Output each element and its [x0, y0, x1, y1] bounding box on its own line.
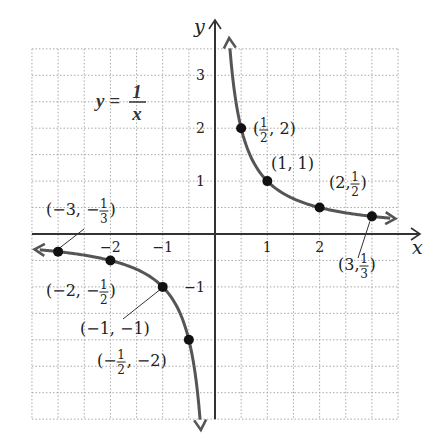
- data-point: [367, 211, 377, 221]
- svg-text:x: x: [131, 103, 142, 124]
- data-point: [262, 176, 272, 186]
- data-point: [184, 335, 194, 345]
- leader-line: [60, 229, 84, 248]
- svg-text:1: 1: [351, 170, 359, 184]
- svg-text:(1, 1): (1, 1): [271, 154, 314, 173]
- svg-text:y =: y =: [94, 90, 120, 111]
- svg-text:(2,: (2,: [329, 173, 351, 192]
- svg-text:2: 2: [351, 185, 359, 199]
- x-tick-label: −1: [152, 239, 173, 255]
- svg-text:(3,: (3,: [338, 255, 360, 274]
- y-tick-label: 3: [196, 67, 205, 83]
- svg-text:): ): [109, 200, 115, 219]
- svg-text:): ): [370, 255, 376, 274]
- svg-text:): ): [361, 173, 367, 192]
- svg-text:(−1, −1): (−1, −1): [80, 319, 150, 338]
- point-label: (2, 12): [329, 170, 367, 199]
- svg-text:3: 3: [360, 267, 368, 281]
- point-label: (−3, −13): [46, 197, 116, 226]
- x-tick-label: 2: [315, 239, 324, 255]
- point-label: (−1, −1): [80, 319, 150, 338]
- y-tick-label: −1: [184, 279, 205, 295]
- labels: xy−2−112321−1(12, 2)(1, 1)(2, 12)(3, 13)…: [46, 15, 423, 377]
- svg-text:1: 1: [260, 116, 268, 130]
- svg-text:3: 3: [100, 212, 108, 226]
- x-tick-label: −2: [100, 239, 121, 255]
- svg-text:): ): [109, 281, 115, 300]
- svg-text:1: 1: [117, 348, 125, 362]
- y-axis-label: y: [193, 15, 205, 37]
- axes: [32, 20, 420, 419]
- curve-arrow-down-icon: [194, 420, 206, 430]
- svg-text:, −2): , −2): [127, 351, 167, 370]
- curve-arrow-up-icon: [224, 38, 236, 48]
- data-point: [236, 123, 246, 133]
- svg-text:2: 2: [100, 293, 108, 307]
- svg-text:2: 2: [117, 363, 125, 377]
- point-label: (−12, −2): [97, 348, 167, 377]
- svg-text:(−2, −: (−2, −: [46, 281, 99, 300]
- x-tick-label: 1: [263, 239, 272, 255]
- data-point: [158, 282, 168, 292]
- leader-line: [123, 290, 160, 319]
- svg-text:1: 1: [100, 197, 108, 211]
- svg-text:1: 1: [100, 278, 108, 292]
- point-label: (−2, −12): [46, 278, 116, 307]
- svg-text:1: 1: [360, 252, 368, 266]
- point-label: (12, 2): [253, 116, 296, 145]
- svg-text:(−: (−: [97, 351, 117, 370]
- svg-text:2: 2: [260, 131, 268, 145]
- y-tick-label: 1: [196, 173, 205, 189]
- svg-text:(: (: [253, 119, 259, 138]
- x-axis-label: x: [412, 236, 423, 258]
- svg-text:, 2): , 2): [269, 119, 296, 138]
- point-label: (1, 1): [271, 154, 314, 173]
- point-label: (3, 13): [338, 252, 376, 281]
- data-point: [315, 203, 325, 213]
- svg-text:1: 1: [132, 81, 142, 102]
- svg-text:(−3, −: (−3, −: [46, 200, 99, 219]
- y-tick-label: 2: [196, 120, 205, 136]
- equation-label: y =1x: [94, 81, 146, 124]
- data-point: [53, 247, 63, 257]
- hyperbola-graph: xy−2−112321−1(12, 2)(1, 1)(2, 12)(3, 13)…: [0, 0, 437, 445]
- data-point: [105, 255, 115, 265]
